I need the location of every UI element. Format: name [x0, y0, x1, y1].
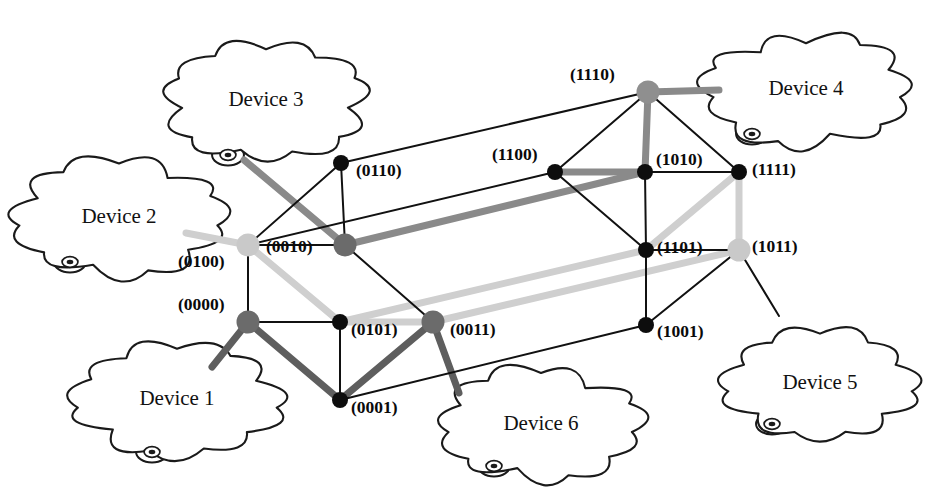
node-label-0000: (0000) [178, 294, 225, 314]
node-label-1101: (1101) [657, 237, 703, 257]
node-label-1110: (1110) [570, 64, 615, 84]
cloud-label-device-6: Device 6 [503, 411, 578, 435]
node-0001[interactable] [332, 392, 348, 408]
node-label-0010: (0010) [266, 236, 313, 256]
node-0101[interactable] [332, 314, 348, 330]
cloud-label-device-4: Device 4 [768, 76, 844, 100]
node-label-1100: (1100) [492, 144, 538, 164]
node-1001[interactable] [638, 317, 654, 333]
cloud-label-device-1: Device 1 [139, 386, 214, 410]
cloud-tail-core [769, 422, 776, 426]
edge-1110-1010 [645, 92, 648, 172]
node-label-0011: (0011) [450, 319, 496, 339]
node-1011[interactable] [728, 239, 751, 262]
edge-0100-0101 [248, 245, 340, 322]
node-label-1001: (1001) [657, 321, 704, 341]
cloud-tail-core [749, 132, 756, 136]
diagram-canvas: (0110)(1100)(1110)(1010)(1111)(0100)(001… [0, 0, 929, 504]
node-label-0001: (0001) [351, 397, 398, 417]
cloud-label-device-5: Device 5 [782, 370, 857, 394]
link-device-5 [739, 250, 779, 316]
cloud-tail-core [67, 260, 74, 264]
node-label-1010: (1010) [656, 149, 703, 169]
cloud-tail-core [149, 450, 156, 454]
node-label-0101: (0101) [351, 319, 398, 339]
node-1110[interactable] [637, 81, 660, 104]
node-0011[interactable] [422, 311, 445, 334]
cloud-tail-core [491, 464, 498, 468]
node-1111[interactable] [731, 164, 747, 180]
node-label-0110: (0110) [356, 160, 402, 180]
node-1100[interactable] [547, 164, 563, 180]
node-1010[interactable] [637, 164, 653, 180]
node-0000[interactable] [237, 311, 260, 334]
cloud-label-device-3: Device 3 [228, 87, 303, 111]
edge-1010-1101 [645, 172, 646, 250]
cloud-layer [8, 33, 921, 486]
node-label-0100: (0100) [178, 251, 225, 271]
node-1101[interactable] [638, 242, 654, 258]
node-label-1011: (1011) [752, 236, 798, 256]
node-0110[interactable] [333, 155, 349, 171]
cloud-tail-core [225, 153, 232, 157]
cloud-label-device-2: Device 2 [81, 204, 156, 228]
node-0100[interactable] [237, 234, 260, 257]
node-0010[interactable] [334, 234, 357, 257]
edge-1110-1100 [555, 92, 648, 172]
edge-0010-1010 [345, 172, 645, 245]
edge-0110-0010 [341, 163, 345, 245]
node-label-1111: (1111) [752, 159, 796, 179]
hypercube-network-svg: (0110)(1100)(1110)(1010)(1111)(0100)(001… [0, 0, 929, 504]
